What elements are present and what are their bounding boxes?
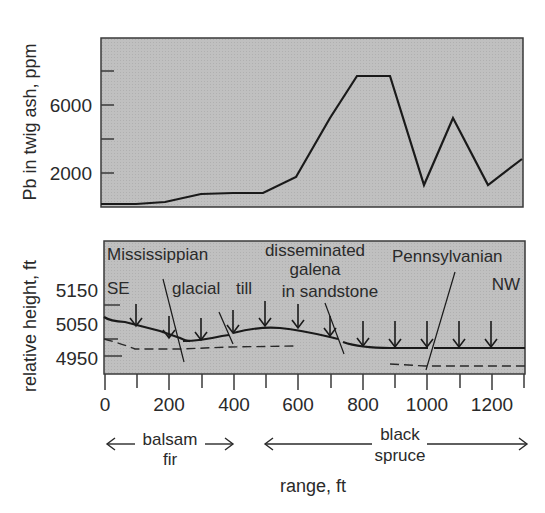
top-plot-area [101, 38, 523, 207]
bottom-ytick-5150: 5150 [56, 280, 98, 301]
top-ytick-2000: 2000 [50, 163, 92, 184]
label-pennsylvanian: Pennsylvanian [392, 247, 503, 266]
vegetation-zones: balsam fir black spruce [107, 425, 527, 469]
zone-balsam: balsam [143, 430, 198, 449]
x-ticks [105, 374, 524, 390]
figure: 6000 2000 Pb in twig ash, ppm 5150 5050 … [0, 0, 545, 513]
label-mississippian: Mississippian [107, 245, 208, 264]
label-disseminated: disseminated [265, 241, 365, 260]
xtick-1200: 1200 [471, 394, 513, 415]
top-panel: 6000 2000 Pb in twig ash, ppm [20, 38, 523, 207]
xtick-0: 0 [100, 394, 111, 415]
label-galena: galena [289, 260, 341, 279]
xtick-200: 200 [153, 394, 185, 415]
label-glacial: glacial [172, 279, 220, 298]
zone-spruce: spruce [374, 446, 425, 465]
bottom-y-axis-title: relative height, ft [20, 260, 40, 392]
bottom-ytick-4950: 4950 [56, 348, 98, 369]
label-nw: NW [492, 275, 520, 294]
x-axis-title: range, ft [280, 476, 346, 496]
top-y-axis-title: Pb in twig ash, ppm [20, 43, 40, 200]
top-ytick-6000: 6000 [50, 95, 92, 116]
zone-fir: fir [163, 450, 178, 469]
bottom-ytick-5050: 5050 [56, 314, 98, 335]
bottom-panel: 5150 5050 4950 relative height, ft [20, 241, 525, 415]
xtick-400: 400 [218, 394, 250, 415]
xtick-1000: 1000 [406, 394, 448, 415]
label-till: till [236, 279, 252, 298]
xtick-800: 800 [347, 394, 379, 415]
label-se: SE [107, 279, 130, 298]
label-in-sandstone: in sandstone [282, 282, 378, 301]
xtick-600: 600 [282, 394, 314, 415]
zone-black: black [380, 425, 420, 444]
